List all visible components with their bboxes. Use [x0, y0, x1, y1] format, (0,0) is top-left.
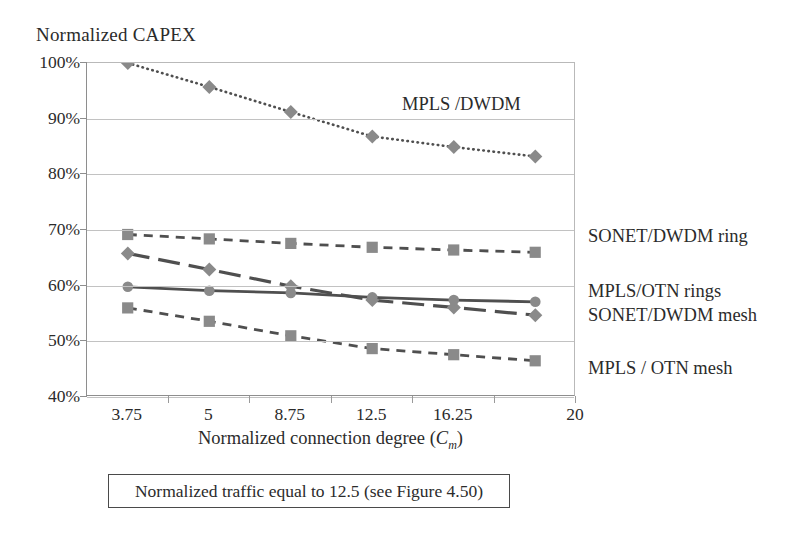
series-line [128, 287, 536, 302]
y-axis-labels: 100%90%80%70%60%50%40% [18, 62, 80, 396]
x-axis-tick [331, 396, 332, 403]
gridline [87, 341, 574, 342]
series-label-sonet-dwdm-ring: SONET/DWDM ring [588, 226, 748, 247]
marker-square [285, 330, 296, 341]
marker-square [367, 242, 378, 253]
x-axis-title-variable: C [436, 428, 448, 448]
marker-square [204, 233, 215, 244]
y-axis-tick-label: 70% [48, 219, 80, 240]
x-axis-tick [168, 396, 169, 403]
figure-caption-text: Normalized traffic equal to 12.5 (see Fi… [135, 481, 483, 502]
y-axis-tick-label: 80% [48, 163, 80, 184]
marker-square [367, 343, 378, 354]
x-axis-tick-label: 3.75 [111, 404, 142, 425]
y-axis-tick [80, 285, 87, 286]
x-axis-title: Normalized connection degree (Cm) [86, 428, 575, 453]
x-axis-title-suffix: ) [457, 428, 463, 448]
y-axis-tick [80, 173, 87, 174]
x-axis-tick [249, 396, 250, 403]
x-axis-tick [494, 396, 495, 403]
marker-circle [123, 282, 134, 293]
series-sonet-dwdm-mesh [121, 246, 543, 322]
marker-diamond [528, 150, 542, 164]
marker-diamond [202, 80, 216, 94]
y-axis-tick-label: 100% [39, 52, 80, 73]
y-axis-tick-label: 50% [48, 330, 80, 351]
gridline [87, 286, 574, 287]
x-axis-tick-label: 12.5 [356, 404, 387, 425]
x-axis-tick [412, 396, 413, 403]
y-axis-tick-label: 60% [48, 274, 80, 295]
series-label-mpls-otn-mesh: MPLS / OTN mesh [588, 358, 732, 379]
x-axis-tick-label: 16.25 [433, 404, 472, 425]
y-axis-tick [80, 396, 87, 397]
marker-square [285, 238, 296, 249]
series-label-mpls-otn-rings: MPLS/OTN rings [588, 281, 721, 302]
marker-square [204, 316, 215, 327]
marker-square [122, 302, 133, 313]
marker-square [448, 349, 459, 360]
series-label-mpls-dwdm: MPLS /DWDM [402, 94, 521, 115]
marker-square [448, 244, 459, 255]
marker-diamond [528, 308, 542, 322]
y-axis-tick [80, 340, 87, 341]
marker-circle [367, 292, 378, 303]
x-axis-title-subscript: m [448, 438, 457, 452]
figure-caption-box: Normalized traffic equal to 12.5 (see Fi… [108, 474, 510, 508]
marker-circle [449, 295, 460, 306]
gridline [87, 119, 574, 120]
series-line [128, 253, 536, 315]
y-axis-tick [80, 118, 87, 119]
gridline [87, 230, 574, 231]
x-axis-title-prefix: Normalized connection degree ( [198, 428, 436, 448]
x-axis-tick-label: 20 [566, 404, 584, 425]
marker-diamond [121, 246, 135, 260]
y-axis-tick [80, 62, 87, 63]
x-axis-tick-label: 8.75 [274, 404, 305, 425]
figure-capex-vs-connection-degree: Normalized CAPEX 100%90%80%70%60%50%40% … [0, 0, 808, 548]
series-line [128, 235, 536, 253]
marker-diamond [202, 263, 216, 277]
y-axis-title: Normalized CAPEX [36, 24, 196, 46]
marker-circle [204, 285, 215, 296]
y-axis-tick-label: 90% [48, 107, 80, 128]
series-sonet-dwdm-ring [122, 229, 541, 258]
x-axis-tick [575, 396, 576, 403]
gridline [87, 174, 574, 175]
series-line [128, 308, 536, 361]
series-mpls-otn-mesh [122, 302, 541, 366]
marker-circle [286, 288, 297, 299]
marker-diamond [284, 105, 298, 119]
marker-circle [530, 297, 541, 308]
series-label-sonet-dwdm-mesh: SONET/DWDM mesh [588, 305, 757, 326]
marker-diamond [121, 63, 135, 70]
y-axis-tick [80, 229, 87, 230]
marker-square [530, 247, 541, 258]
y-axis-tick-label: 40% [48, 386, 80, 407]
marker-diamond [447, 140, 461, 154]
marker-diamond [365, 130, 379, 144]
marker-square [530, 355, 541, 366]
x-axis-tick-label: 5 [204, 404, 213, 425]
